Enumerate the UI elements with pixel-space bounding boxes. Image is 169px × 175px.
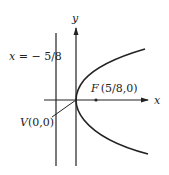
parabola-curve (76, 49, 148, 154)
vertex-label: V(0,0) (20, 116, 54, 129)
focus-point (94, 98, 97, 101)
y-axis-label: y (71, 12, 79, 25)
focus-label-coords: (5/8,0) (101, 82, 138, 95)
vertex-label-coords: (0,0) (28, 116, 54, 129)
directrix-label: x = − 5/8 (9, 50, 62, 63)
parabola-diagram: y x x = − 5/8 F(5/8,0) V(0,0) (0, 0, 169, 175)
focus-label: F(5/8,0) (90, 82, 137, 95)
x-axis-label: x (154, 94, 161, 107)
directrix-label-rest: = − 5/8 (15, 50, 62, 63)
focus-label-letter: F (90, 82, 99, 95)
